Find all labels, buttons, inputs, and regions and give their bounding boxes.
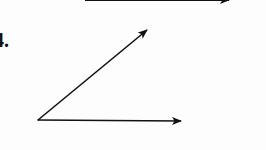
angle-diagram <box>0 0 266 150</box>
lower-ray-arrow <box>38 120 181 121</box>
upper-ray-arrow <box>38 30 147 120</box>
angle-vertex <box>37 119 39 121</box>
worksheet-page: 4. <box>0 0 266 150</box>
